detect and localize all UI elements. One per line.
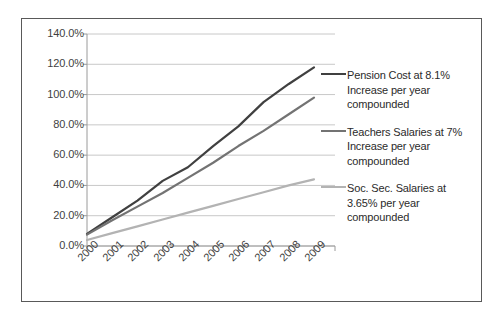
y-axis-tick-label: 20.0%	[22, 209, 84, 221]
y-axis-tick-label: 60.0%	[22, 148, 84, 160]
legend-item-label: Soc. Sec. Salaries at 3.65% per year com…	[347, 181, 479, 225]
series-line	[87, 98, 314, 235]
y-axis-tick-label: 80.0%	[22, 118, 84, 130]
chart-legend: Pension Cost at 8.1% Increase per year c…	[321, 68, 479, 238]
y-axis-tick-label: 100.0%	[22, 88, 84, 100]
y-axis-tick-label: 120.0%	[22, 57, 84, 69]
legend-item[interactable]: Soc. Sec. Salaries at 3.65% per year com…	[321, 181, 479, 225]
y-axis-tick-label: 0.0%	[22, 239, 84, 251]
legend-item-label: Pension Cost at 8.1% Increase per year c…	[347, 68, 479, 112]
y-axis-tick-label: 140.0%	[22, 27, 84, 39]
legend-item[interactable]: Pension Cost at 8.1% Increase per year c…	[321, 68, 479, 112]
series-line	[87, 179, 314, 240]
legend-item-label: Teachers Salaries at 7% Increase per yea…	[347, 125, 479, 169]
chart-container: 140.0%120.0%100.0%80.0%60.0%40.0%20.0%0.…	[21, 18, 482, 302]
legend-color-swatch	[321, 181, 346, 192]
legend-color-swatch	[321, 68, 346, 79]
legend-item[interactable]: Teachers Salaries at 7% Increase per yea…	[321, 125, 479, 169]
y-axis-tick-label: 40.0%	[22, 178, 84, 190]
legend-color-swatch	[321, 125, 346, 136]
